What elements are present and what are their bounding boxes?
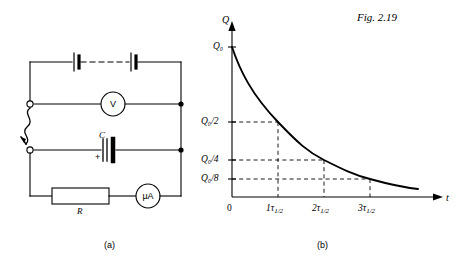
junction-dot-capacitor <box>178 147 183 152</box>
y-tick-label-q0: Q₀ <box>213 41 223 51</box>
circuit-svg <box>0 0 215 268</box>
resistor-body <box>52 188 109 204</box>
switch-lever-wave <box>25 108 30 144</box>
switch-terminal-upper <box>27 101 33 107</box>
x-tick-label-2: 2τ1/2 <box>312 203 329 215</box>
capacitor-polarity-label: + <box>95 152 100 162</box>
x-tick-2-sub: 1/2 <box>320 207 329 215</box>
panel-b-chart: Q t Q₀ Q₀/2 Q₀/4 Q₀/8 0 1τ1/2 2τ1/2 3τ1/… <box>200 0 459 268</box>
y-tick-label-q0-quarter: Q₀/4 <box>201 154 219 164</box>
x-tick-label-1: 1τ1/2 <box>266 203 283 215</box>
capacitor-label: C <box>99 130 105 140</box>
origin-label: 0 <box>227 203 232 213</box>
chart-svg <box>200 0 459 268</box>
panel-b-caption: (b) <box>317 240 328 250</box>
panel-a-caption: (a) <box>104 240 115 250</box>
decay-curve <box>232 47 418 189</box>
resistor-label: R <box>77 206 83 216</box>
junction-dot-voltmeter <box>178 101 183 106</box>
y-axis-arrowhead <box>228 21 235 31</box>
y-axis-title: Q <box>222 14 229 25</box>
microammeter-label: µA <box>139 191 157 201</box>
figure-number: Fig. 2.19 <box>357 11 397 23</box>
panel-a-circuit: V C + R µA (a) <box>0 0 215 268</box>
x-tick-3-sub: 1/2 <box>366 207 375 215</box>
y-tick-label-q0-eighth: Q₀/8 <box>201 173 219 183</box>
x-tick-1-sub: 1/2 <box>274 207 283 215</box>
x-axis-title: t <box>446 192 449 203</box>
voltmeter-label: V <box>106 99 120 109</box>
x-axis-arrowhead <box>433 193 443 200</box>
x-tick-label-3: 3τ1/2 <box>358 203 375 215</box>
figure-2-19: V C + R µA (a) <box>0 0 459 268</box>
y-tick-label-q0-half: Q₀/2 <box>201 116 219 126</box>
switch-terminal-lower <box>27 147 33 153</box>
